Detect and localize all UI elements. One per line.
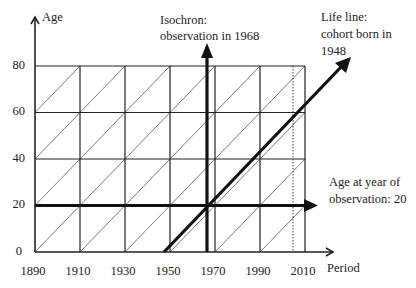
age-line-label-line2: observation: 20 [329,191,406,207]
age-line-arrowhead [304,199,318,212]
y-tick-0: 0 [0,244,22,258]
life-line-label-line1: Life line: [321,9,367,25]
x-tick-2010: 2010 [283,264,323,278]
isochron-label-line1: Isochron: [160,12,207,28]
x-tick-1890: 1890 [13,264,53,278]
x-axis-label: Period [327,260,360,276]
y-tick-60: 60 [0,104,25,118]
y-tick-40: 40 [0,151,25,165]
life-line-label-line2: cohort born in [321,26,392,42]
y-tick-80: 80 [0,58,25,72]
x-tick-1970: 1970 [193,264,233,278]
life-line-label-line3: 1948 [321,43,346,59]
y-axis-label: Age [42,9,63,25]
isochron-label-line2: observation in 1968 [160,28,259,44]
x-tick-1950: 1950 [148,264,188,278]
x-tick-1910: 1910 [58,264,98,278]
x-tick-1930: 1930 [103,264,143,278]
age-line-label-line1: Age at year of [329,174,400,190]
isochron-arrowhead [201,43,213,58]
y-tick-20: 20 [0,197,25,211]
x-tick-1990: 1990 [238,264,278,278]
